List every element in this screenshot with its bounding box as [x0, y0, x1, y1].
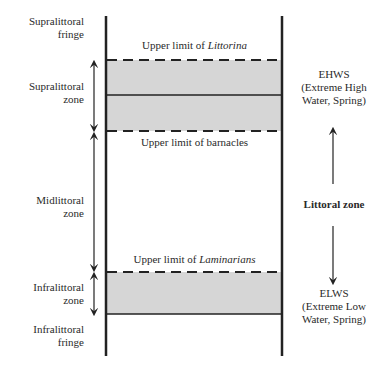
label-line: zone [33, 294, 84, 307]
label-line: Water, Spring) [290, 313, 378, 326]
label-infralittoral-fringe: Infralittoral fringe [33, 323, 84, 349]
limit-taxon: Laminarians [199, 253, 255, 265]
label-supralittoral-zone: Supralittoral zone [29, 80, 84, 106]
label-line: (Extreme High [290, 81, 378, 94]
label-limit-littorina: Upper limit of Littorina [107, 39, 282, 52]
label-line: Midlittoral [36, 194, 84, 207]
label-line: zone [36, 207, 84, 220]
label-limit-laminarians: Upper limit of Laminarians [107, 253, 282, 266]
label-littoral-zone: Littoral zone [290, 198, 378, 211]
label-supralittoral-fringe: Supralittoral fringe [29, 15, 84, 41]
label-line: Supralittoral [29, 80, 84, 93]
limit-prefix: Upper limit of [134, 253, 200, 265]
littoral-zonation-diagram: Supralittoral fringe Supralittoral zone … [0, 0, 386, 372]
label-line: ELWS [290, 287, 378, 300]
label-limit-barnacles: Upper limit of barnacles [107, 136, 282, 149]
label-line: fringe [29, 28, 84, 41]
limit-prefix: Upper limit of [142, 39, 208, 51]
label-line: Supralittoral [29, 15, 84, 28]
label-line: Water, Spring) [290, 94, 378, 107]
label-line: Infralittoral [33, 281, 84, 294]
infralittoral-band [107, 272, 282, 314]
limit-taxon: Littorina [208, 39, 247, 51]
label-infralittoral-zone: Infralittoral zone [33, 281, 84, 307]
label-line: Infralittoral [33, 323, 84, 336]
limit-taxon: barnacles [207, 136, 249, 148]
label-line: (Extreme Low [290, 300, 378, 313]
label-line: EHWS [290, 68, 378, 81]
label-line: zone [29, 93, 84, 106]
littoral-zone-text: Littoral zone [304, 198, 365, 210]
label-elws: ELWS (Extreme Low Water, Spring) [290, 287, 378, 326]
limit-prefix: Upper limit of [141, 136, 207, 148]
label-line: fringe [33, 336, 84, 349]
label-ehws: EHWS (Extreme High Water, Spring) [290, 68, 378, 107]
label-midlittoral-zone: Midlittoral zone [36, 194, 84, 220]
